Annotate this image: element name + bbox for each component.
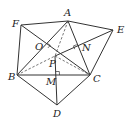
point-label-D: D [52,108,61,119]
point-label-C: C [93,73,101,84]
right-angle-mark-M [56,72,60,75]
point-label-N: N [81,42,92,53]
segment-FB [17,25,21,75]
point-label-E: E [116,24,125,35]
point-label-P: P [48,58,56,69]
point-label-O: O [35,41,43,52]
diagram-canvas: AEFONPBMCD [0,0,130,122]
dashed-segment-PC [55,56,90,75]
geometry-figure: AEFONPBMCD [0,0,130,122]
point-label-B: B [7,71,15,82]
segment-DC [57,75,90,105]
solid-segments [17,21,113,105]
point-label-A: A [63,7,71,18]
point-label-M: M [45,76,57,87]
segment-AE [68,21,113,30]
point-label-F: F [11,18,20,29]
segment-FA [21,21,68,25]
segment-EC [90,30,113,75]
